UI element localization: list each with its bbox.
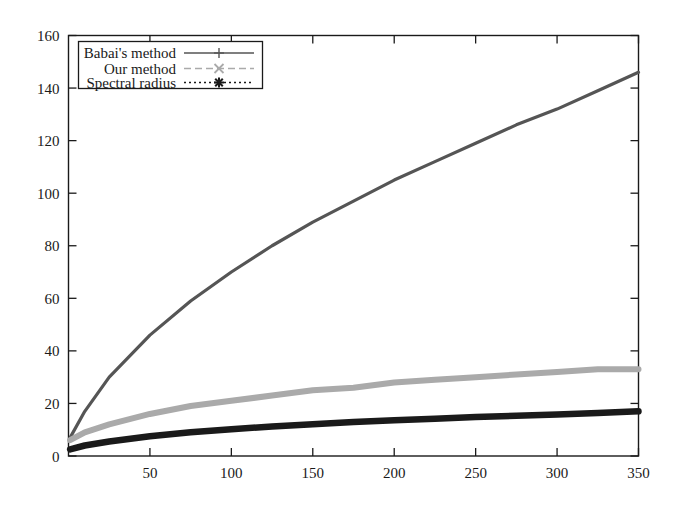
y-axis-ticks: 020406080100120140160 bbox=[37, 28, 639, 465]
legend-label-2: Spectral radius bbox=[86, 75, 176, 91]
x-tick-label: 100 bbox=[220, 465, 243, 481]
x-tick-label: 350 bbox=[627, 465, 650, 481]
series-line-2 bbox=[70, 411, 638, 449]
y-tick-label: 60 bbox=[45, 291, 60, 307]
legend-label-0: Babai's method bbox=[84, 45, 177, 61]
y-tick-label: 120 bbox=[37, 133, 60, 149]
y-tick-label: 100 bbox=[37, 186, 60, 202]
x-tick-label: 250 bbox=[464, 465, 487, 481]
x-tick-label: 50 bbox=[142, 465, 157, 481]
line-chart: 020406080100120140160 501001502002503003… bbox=[0, 0, 685, 513]
series-line-0 bbox=[70, 72, 638, 437]
data-curves bbox=[70, 72, 638, 449]
x-tick-label: 150 bbox=[302, 465, 325, 481]
y-tick-label: 20 bbox=[45, 396, 60, 412]
series-line-1 bbox=[70, 369, 638, 440]
y-tick-label: 80 bbox=[45, 238, 60, 254]
chart-legend: Babai's methodOur methodSpectral radius bbox=[79, 42, 263, 91]
y-tick-label: 160 bbox=[37, 28, 60, 44]
x-tick-label: 300 bbox=[546, 465, 569, 481]
y-tick-label: 0 bbox=[52, 449, 60, 465]
legend-marker-star bbox=[214, 78, 224, 88]
x-tick-label: 200 bbox=[383, 465, 406, 481]
y-tick-label: 40 bbox=[45, 343, 60, 359]
y-tick-label: 140 bbox=[37, 81, 60, 97]
chart-figure: 020406080100120140160 501001502002503003… bbox=[0, 0, 685, 513]
plot-border bbox=[69, 36, 639, 457]
